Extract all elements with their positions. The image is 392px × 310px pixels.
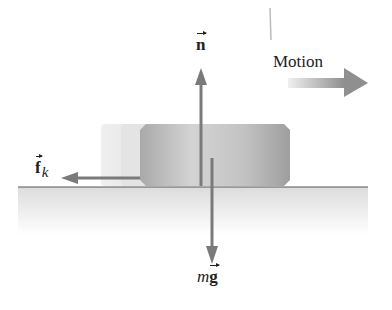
- gravity-symbol: g: [209, 267, 218, 287]
- motion-label: Motion: [273, 52, 323, 72]
- ground-surface: [18, 187, 368, 235]
- normal-force-arrowhead: [195, 68, 207, 85]
- normal-force-label: n: [196, 35, 205, 55]
- block: [140, 124, 290, 186]
- free-body-diagram: n Motion fk mg: [0, 0, 392, 310]
- friction-force-label: fk: [35, 158, 48, 178]
- friction-arrowhead: [61, 172, 78, 184]
- mass-symbol: m: [197, 267, 209, 286]
- normal-force-symbol: n: [196, 35, 205, 55]
- friction-subscript: k: [42, 164, 49, 180]
- motion-arrowhead: [344, 68, 368, 97]
- motion-arrow-shaft: [288, 78, 344, 88]
- friction-symbol: f: [35, 158, 41, 178]
- weight-label: mg: [197, 267, 218, 287]
- weight-arrowhead: [206, 246, 218, 264]
- stray-mark: [270, 8, 271, 40]
